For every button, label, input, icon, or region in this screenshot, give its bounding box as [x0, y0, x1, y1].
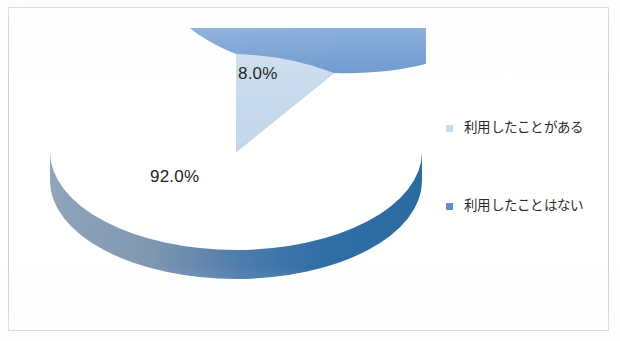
pie-data-label-large: 92.0%: [150, 167, 199, 187]
pie-chart-graphic: [46, 28, 426, 313]
legend-label-not-used: 利用したことはない: [464, 199, 584, 213]
legend-item-not-used[interactable]: 利用したことはない: [446, 196, 606, 216]
legend-swatch-icon-not-used: [446, 203, 453, 210]
legend-item-used[interactable]: 利用したことがある: [446, 118, 606, 138]
legend-label-used: 利用したことがある: [464, 121, 584, 135]
pie-3d-side-wall: [50, 152, 422, 279]
chart-page: 8.0% 92.0% 利用したことがある 利用したことはない: [0, 0, 620, 341]
legend-swatch-icon-used: [446, 125, 453, 132]
chart-legend: 利用したことがある 利用したことはない: [446, 118, 606, 216]
pie-data-label-small: 8.0%: [238, 64, 278, 84]
